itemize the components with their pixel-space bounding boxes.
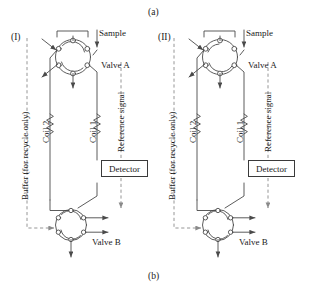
valve-a-label-II: Valve A bbox=[248, 61, 277, 70]
detector-label-II: Detector bbox=[256, 164, 287, 174]
coil1-label-I: Coil 1 bbox=[89, 121, 98, 143]
buffer-label-II: Buffer (for recycle only) bbox=[168, 111, 177, 200]
panel-label-II: (II) bbox=[158, 33, 171, 43]
valve-b-label-I: Valve B bbox=[92, 238, 121, 247]
figure-caption-bottom: (b) bbox=[148, 272, 159, 282]
figure-root: Detector Detector (a) (b) (I) Sample Val… bbox=[0, 0, 311, 291]
figure-caption-top: (a) bbox=[148, 8, 159, 18]
panel-II-graphics bbox=[189, 30, 255, 257]
valve-b-label-II: Valve B bbox=[239, 238, 268, 247]
reference-signal-label-I: Reference signal bbox=[117, 92, 126, 152]
detector-box-I: Detector bbox=[101, 160, 148, 177]
reference-signal-label-II: Reference signal bbox=[264, 92, 273, 152]
detector-label-I: Detector bbox=[109, 164, 140, 174]
valve-a-label-I: Valve A bbox=[101, 61, 130, 70]
coil2-label-II: Coil 2 bbox=[189, 121, 198, 143]
coil1-label-II: Coil 1 bbox=[236, 121, 245, 143]
buffer-label-I: Buffer (for recycle only) bbox=[21, 111, 30, 200]
panel-label-I: (I) bbox=[11, 33, 21, 43]
sample-label-I: Sample bbox=[99, 29, 126, 38]
panel-I-graphics bbox=[42, 30, 108, 257]
sample-label-II: Sample bbox=[246, 29, 273, 38]
detector-box-II: Detector bbox=[248, 160, 295, 177]
coil2-label-I: Coil 2 bbox=[42, 121, 51, 143]
